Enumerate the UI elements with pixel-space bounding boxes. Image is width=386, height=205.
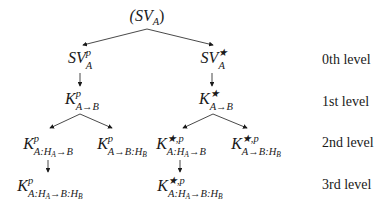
- node-k-p-a-ha-to-b: KpA:HA→B: [23, 135, 73, 156]
- level-label-1: 1st level: [322, 94, 369, 110]
- node-k-star-a-to-b: K★A→B: [199, 90, 233, 111]
- node-sub-h: B: [276, 149, 281, 158]
- edge-root-to-svstar: [147, 29, 213, 45]
- node-sub-pre: A→B:H: [108, 145, 142, 156]
- node-sub-pre: A:H: [167, 145, 185, 156]
- node-sv-a-star: SV★A: [201, 49, 228, 70]
- node-sup: p: [108, 134, 147, 145]
- node-sub-post: →B: [56, 145, 73, 156]
- node-base: K: [157, 177, 168, 194]
- node-k-p-a-to-b: KpA→B: [65, 90, 99, 111]
- hierarchy-diagram: (SVA) SVpA SV★A KpA→B K★A→B KpA:HA→B KpA…: [0, 0, 386, 205]
- node-sub: A→B: [76, 101, 99, 112]
- edge-kp-to-kp-ha: [50, 114, 80, 128]
- node-sup: ★,p: [242, 134, 281, 145]
- edge-root-to-svp: [83, 29, 147, 45]
- edge-kp-to-kp-hb: [80, 114, 112, 128]
- node-base: K: [65, 90, 76, 107]
- node-sub-h: A: [45, 191, 50, 200]
- node-base: SV: [201, 49, 219, 66]
- node-base: K: [231, 135, 242, 152]
- node-sup: p: [86, 48, 92, 59]
- node-base: K: [97, 135, 108, 152]
- node-sup: p: [34, 134, 73, 145]
- node-sub-pre: A:H: [34, 145, 52, 156]
- node-sup: ★,p: [167, 134, 206, 145]
- node-base: K: [199, 90, 210, 107]
- edge-kstar-to-kstarp-hb: [213, 114, 247, 128]
- node-base: SV: [68, 49, 86, 66]
- node-sv-a-p: SVpA: [68, 49, 92, 70]
- node-sub: A: [218, 60, 227, 71]
- node-sup: ★: [218, 48, 227, 59]
- node-sup: p: [28, 176, 83, 187]
- node-sub-post: →B: [189, 145, 206, 156]
- node-sub-h: A: [185, 191, 190, 200]
- root-text: (SV: [130, 7, 153, 24]
- node-sub-pre: A→B:H: [242, 145, 276, 156]
- node-sub-pre: A:H: [168, 187, 186, 198]
- node-base: K: [23, 135, 34, 152]
- level-label-0: 0th level: [322, 52, 371, 68]
- root-close: ): [159, 7, 164, 24]
- node-sub: A: [86, 60, 92, 71]
- node-base: K: [17, 177, 28, 194]
- edge-kstar-to-kstarp-ha: [183, 114, 213, 128]
- node-sup: p: [76, 89, 99, 100]
- node-sub-h: A: [184, 149, 189, 158]
- node-k-starp-a-ha-to-b-hb: K★,pA:HA→B:HB: [157, 177, 222, 198]
- node-sub: A→B: [210, 101, 233, 112]
- root-node-sv-a: (SVA): [130, 8, 165, 28]
- node-k-starp-a-to-b-hb: K★,pA→B:HB: [231, 135, 281, 156]
- node-sub-h2: B: [78, 191, 83, 200]
- node-sub-mid: →B:H: [50, 187, 78, 198]
- node-base: K: [156, 135, 167, 152]
- node-sub-mid: →B:H: [190, 187, 218, 198]
- node-sub-h: B: [142, 149, 147, 158]
- node-k-p-a-to-b-hb: KpA→B:HB: [97, 135, 147, 156]
- node-sub-pre: A:H: [28, 187, 46, 198]
- node-sub-h: A: [51, 149, 56, 158]
- node-sub-h2: B: [218, 191, 223, 200]
- node-k-starp-a-ha-to-b: K★,pA:HA→B: [156, 135, 206, 156]
- level-label-2: 2nd level: [322, 135, 374, 151]
- node-sup: ★: [210, 89, 233, 100]
- level-label-3: 3rd level: [322, 177, 371, 193]
- node-k-p-a-ha-to-b-hb: KpA:HA→B:HB: [17, 177, 82, 198]
- node-sup: ★,p: [168, 176, 223, 187]
